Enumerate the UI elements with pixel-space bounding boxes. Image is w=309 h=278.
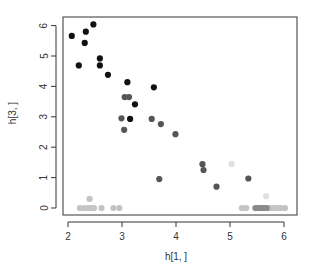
data-point [105,72,111,78]
y-axis: 0123456 [39,22,57,210]
data-point [83,29,89,35]
x-tick-label: 5 [227,231,233,242]
y-tick-label: 5 [39,53,50,59]
data-point [116,205,122,211]
x-tick-label: 4 [173,231,179,242]
x-axis-label: h[1, ] [165,251,187,262]
data-point [151,84,157,90]
data-point [82,40,88,46]
data-point [127,116,133,122]
x-tick-label: 2 [65,231,71,242]
data-point [126,94,132,100]
data-point [149,116,155,122]
data-point [97,62,103,68]
data-point [110,205,116,211]
data-point [76,62,82,68]
x-axis: 23456 [65,222,287,242]
data-point [172,131,178,137]
plot-canvas: 23456 0123456 h[1, ] h[3, ] [0,0,309,278]
plot-box [63,17,297,215]
data-point [264,205,270,211]
data-point [69,33,75,39]
data-point [158,121,164,127]
data-point [91,205,97,211]
data-point [199,161,205,167]
data-points [69,21,289,211]
data-point [124,79,130,85]
scatter-plot: 23456 0123456 h[1, ] h[3, ] [0,0,309,278]
data-point [90,21,96,27]
x-tick-label: 3 [119,231,125,242]
data-point [156,176,162,182]
y-tick-label: 4 [39,83,50,89]
data-point [229,161,235,167]
data-point [245,175,251,181]
y-tick-label: 6 [39,22,50,28]
data-point [97,55,103,61]
y-tick-label: 3 [39,114,50,120]
data-point [200,167,206,173]
data-point [263,193,269,199]
data-point [121,127,127,133]
data-point [243,205,249,211]
data-point [87,196,93,202]
y-tick-label: 1 [39,174,50,180]
data-point [98,205,104,211]
y-tick-label: 2 [39,144,50,150]
data-point [213,184,219,190]
y-axis-label: h[3, ] [7,102,18,124]
x-tick-label: 6 [281,231,287,242]
data-point [282,205,288,211]
data-point [132,101,138,107]
data-point [118,115,124,121]
y-tick-label: 0 [39,205,50,211]
